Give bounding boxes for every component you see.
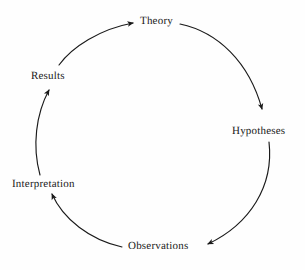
edge-observations-to-interpretation: [52, 194, 122, 247]
edge-results-to-theory: [59, 23, 133, 65]
edge-interpretation-to-results: [36, 90, 49, 175]
node-label-interpretation: Interpretation: [12, 179, 75, 190]
edge-theory-to-hypotheses: [180, 24, 262, 109]
node-label-results: Results: [31, 71, 65, 82]
node-label-hypotheses: Hypotheses: [232, 126, 285, 137]
node-label-theory: Theory: [140, 16, 173, 27]
edge-hypotheses-to-observations: [208, 142, 270, 244]
research-cycle-diagram: Theory Hypotheses Observations Interpret…: [0, 0, 305, 270]
node-label-observations: Observations: [128, 241, 188, 252]
